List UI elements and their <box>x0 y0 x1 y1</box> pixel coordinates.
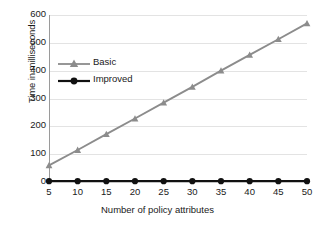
data-point-marker <box>46 178 52 184</box>
legend-label-improved: Improved <box>90 73 133 84</box>
y-tick-label: 300 <box>20 93 46 103</box>
y-tick-label: 0 <box>20 176 46 186</box>
plot-area <box>49 15 307 182</box>
legend-swatch-triangle-icon <box>58 56 90 68</box>
data-point-marker <box>75 178 81 184</box>
x-tick-label: 30 <box>177 186 207 197</box>
x-tick-label: 20 <box>120 186 150 197</box>
y-tick-label: 100 <box>20 148 46 158</box>
data-point-marker <box>132 178 138 184</box>
data-point-marker <box>103 178 109 184</box>
x-tick-label: 5 <box>34 186 64 197</box>
x-axis-title: Number of policy attributes <box>0 204 315 215</box>
series-improved <box>46 178 310 184</box>
data-point-marker <box>218 178 224 184</box>
y-axis-tick-labels: 0100200300400500600 <box>20 14 46 182</box>
series-line <box>49 23 307 165</box>
x-tick-label: 45 <box>263 186 293 197</box>
legend-item-improved: Improved <box>58 70 168 87</box>
data-point-marker <box>247 178 253 184</box>
data-point-marker <box>161 178 167 184</box>
data-point-marker <box>189 178 195 184</box>
y-tick-label: 600 <box>20 9 46 19</box>
y-tick-label: 200 <box>20 120 46 130</box>
data-point-marker <box>304 178 310 184</box>
legend-item-basic: Basic <box>58 53 168 70</box>
data-point-marker <box>304 20 311 26</box>
x-tick-label: 25 <box>149 186 179 197</box>
x-tick-label: 50 <box>292 186 315 197</box>
legend-swatch-circle-icon <box>58 73 90 85</box>
line-chart: Time in milliseconds 0100200300400500600… <box>0 0 315 232</box>
data-point-marker <box>275 178 281 184</box>
series-layer <box>49 15 307 182</box>
y-tick-label: 400 <box>20 65 46 75</box>
x-tick-label: 35 <box>206 186 236 197</box>
x-axis-tick-labels: 5101520253035404550 <box>49 186 307 200</box>
x-tick-label: 10 <box>63 186 93 197</box>
chart-legend: Basic Improved <box>58 53 168 87</box>
legend-label-basic: Basic <box>90 56 116 67</box>
y-tick-label: 500 <box>20 37 46 47</box>
series-basic <box>46 20 311 168</box>
x-tick-label: 15 <box>91 186 121 197</box>
x-tick-label: 40 <box>235 186 265 197</box>
